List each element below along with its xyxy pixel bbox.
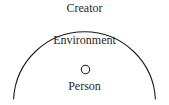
creator-label: Creator [0,2,169,14]
environment-label: Environment [0,34,169,46]
person-label: Person [0,80,169,92]
person-circle-icon [81,65,89,73]
diagram-canvas: Creator Environment Person [0,0,169,105]
